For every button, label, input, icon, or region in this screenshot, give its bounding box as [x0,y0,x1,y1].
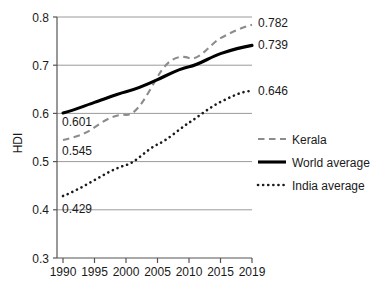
chart-legend: Kerala World average India average [258,133,370,193]
legend-label-kerala: Kerala [292,133,327,147]
legend-item-india-average[interactable]: India average [258,179,365,193]
x-tick-label-2005: 2005 [144,265,171,279]
y-tick-label-0-8: 0.8 [32,11,49,25]
legend-label-india-average: India average [292,179,365,193]
x-axis-ticks [63,258,252,263]
data-label-india-average-2019: 0.646 [258,84,288,98]
data-label-kerala-2019: 0.782 [258,16,288,30]
x-tick-label-1995: 1995 [81,265,108,279]
x-tick-label-1990: 1990 [50,265,77,279]
x-tick-label-2000: 2000 [113,265,140,279]
y-tick-label-0-3: 0.3 [32,252,49,266]
data-label-world-average-2019: 0.739 [258,38,288,52]
y-axis-title: HDI [11,133,25,154]
x-axis-tick-labels: 1990 1995 2000 2005 2010 2015 2019 [50,265,266,279]
y-tick-label-0-7: 0.7 [32,59,49,73]
hdi-line-chart: 0.8 0.7 0.6 0.5 0.4 0.3 1990 1995 2000 2… [0,0,380,295]
data-label-world-average-1990: 0.601 [62,115,92,129]
legend-item-kerala[interactable]: Kerala [258,133,327,147]
y-tick-label-0-4: 0.4 [32,203,49,217]
x-tick-label-2010: 2010 [176,265,203,279]
y-axis-tick-labels: 0.8 0.7 0.6 0.5 0.4 0.3 [32,11,49,266]
y-tick-label-0-6: 0.6 [32,107,49,121]
legend-label-world-average: World average [292,156,370,170]
x-tick-label-2019: 2019 [239,265,266,279]
y-tick-label-0-5: 0.5 [32,155,49,169]
x-tick-label-2015: 2015 [207,265,234,279]
chart-canvas: 0.8 0.7 0.6 0.5 0.4 0.3 1990 1995 2000 2… [0,0,380,295]
legend-item-world-average[interactable]: World average [258,156,370,170]
data-label-india-average-1990: 0.429 [62,202,92,216]
data-label-kerala-1990: 0.545 [62,144,92,158]
